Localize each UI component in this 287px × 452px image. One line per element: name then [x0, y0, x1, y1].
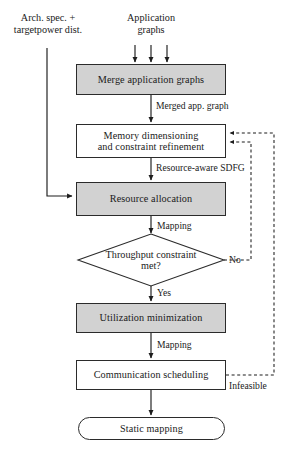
node-utilization-minimization[interactable]: Utilization minimization [76, 303, 226, 333]
edge-label-resource-aware-sdfg: Resource-aware SDFG [156, 163, 245, 173]
node-memory-dimensioning[interactable]: Memory dimensioning and constraint refin… [76, 124, 226, 158]
decision-diamond-shape [78, 234, 224, 286]
node-static-mapping[interactable]: Static mapping [78, 417, 225, 440]
node-communication-scheduling[interactable]: Communication scheduling [76, 360, 226, 390]
flowchart-figure: Arch. spec. + targetpower dist. Applicat… [0, 0, 287, 452]
edge-label-mapping-after-resource: Mapping [157, 221, 192, 231]
edge-label-mapping-after-utilization: Mapping [157, 340, 192, 350]
arrow-feedback-no [224, 142, 251, 260]
edge-label-merged-app-graph: Merged app. graph [156, 101, 229, 111]
input-label-application-graphs: Application graphs [108, 12, 194, 35]
edge-label-no: No [229, 255, 241, 265]
node-merge-application-graphs[interactable]: Merge application graphs [76, 64, 226, 95]
node-throughput-constraint-decision[interactable]: Throughput constraint met? [86, 244, 216, 276]
input-label-arch-spec: Arch. spec. + targetpower dist. [4, 12, 92, 35]
edge-label-yes: Yes [157, 288, 171, 298]
edge-label-infeasible: Infeasible [229, 381, 267, 391]
node-resource-allocation[interactable]: Resource allocation [76, 182, 226, 216]
arrow-arch-spec-to-resource [47, 48, 72, 196]
